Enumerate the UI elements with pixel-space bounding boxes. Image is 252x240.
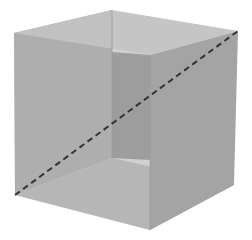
- cube-figure: [0, 0, 252, 240]
- grain-overlay: [14, 10, 238, 230]
- cube-svg: [0, 0, 252, 240]
